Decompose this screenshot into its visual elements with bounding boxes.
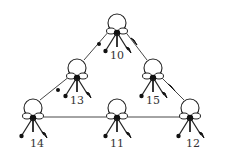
node-12: 12 bbox=[176, 99, 204, 150]
node-label: 13 bbox=[70, 94, 84, 107]
keyring-icon bbox=[63, 59, 91, 98]
node-14: 14 bbox=[19, 99, 47, 150]
node-11: 11 bbox=[103, 99, 131, 150]
network-diagram: 10 13 15 14 11 12 bbox=[0, 0, 228, 159]
node-13: 13 bbox=[63, 59, 91, 107]
edge-marker-dot bbox=[56, 88, 60, 92]
node-label: 14 bbox=[30, 137, 44, 150]
keyring-icon bbox=[103, 99, 131, 138]
edge-marker-arrow bbox=[168, 84, 175, 91]
node-label: 12 bbox=[186, 137, 200, 150]
edge-10-13 bbox=[84, 30, 110, 60]
node-label: 15 bbox=[146, 94, 160, 107]
edge-10-15 bbox=[124, 30, 147, 60]
node-10: 10 bbox=[103, 14, 131, 62]
node-15: 15 bbox=[139, 59, 167, 107]
keyring-icon bbox=[19, 99, 47, 138]
edge-marker-arrow bbox=[131, 38, 137, 45]
keyring-icon bbox=[176, 99, 204, 138]
node-label: 11 bbox=[110, 137, 124, 150]
edge-marker-dot bbox=[97, 42, 101, 46]
node-label: 10 bbox=[110, 49, 124, 62]
